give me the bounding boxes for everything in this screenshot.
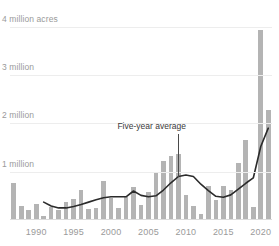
x-axis-tick-label: 2015	[213, 228, 234, 237]
y-axis-tick-label: 3 million	[2, 63, 34, 72]
x-axis-tick-label: 1995	[63, 228, 84, 237]
gridline	[10, 27, 272, 28]
x-axis-tick-label: 2000	[101, 228, 122, 237]
five-year-average-line	[10, 17, 272, 220]
gridline	[10, 172, 272, 173]
y-axis-tick-label: 4 million acres	[2, 15, 58, 24]
y-axis-tick-label: 2 million	[2, 111, 34, 120]
annotation-leader-line	[178, 134, 179, 177]
plot-area	[10, 17, 272, 220]
x-axis-tick-label: 1990	[26, 228, 47, 237]
x-axis-tick-label: 2005	[138, 228, 159, 237]
x-axis-tick-label: 2010	[175, 228, 196, 237]
wildfire-acres-burned-chart: 1 million2 million3 million4 million acr…	[0, 0, 279, 246]
x-axis-tick-label: 2020	[250, 228, 271, 237]
annotation-label-five-year-average: Five-year average	[117, 122, 186, 131]
y-axis-tick-label: 1 million	[2, 160, 34, 169]
x-axis-baseline	[10, 219, 272, 220]
gridline	[10, 75, 272, 76]
average-line-path	[44, 128, 269, 208]
